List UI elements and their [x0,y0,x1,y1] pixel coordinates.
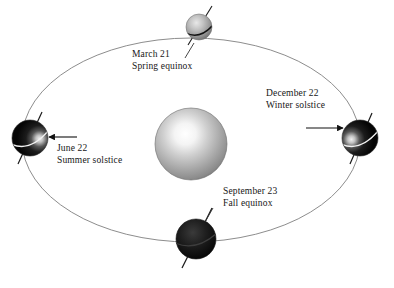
label-september-date: September 23 [223,186,277,196]
leader-september [205,208,213,222]
earth-march [184,6,213,45]
earth-december [341,113,379,164]
label-march-event: Spring equinox [132,61,192,73]
label-june-22: June 22 Summer solstice [57,143,122,166]
label-march-21: March 21 Spring equinox [132,49,192,72]
earth-orbit-diagram: March 21 Spring equinox December 22 Wint… [0,0,394,288]
label-september-23: September 23 Fall equinox [223,186,277,209]
label-december-date: December 22 [266,88,319,98]
sun-sphere [155,108,227,180]
label-december-event: Winter solstice [266,100,325,112]
label-june-event: Summer solstice [57,155,122,167]
label-june-date: June 22 [57,143,87,153]
label-december-22: December 22 Winter solstice [266,88,325,111]
earth-june [11,112,49,164]
earth-september [175,208,217,268]
label-september-event: Fall equinox [223,198,277,210]
label-march-date: March 21 [132,49,170,59]
